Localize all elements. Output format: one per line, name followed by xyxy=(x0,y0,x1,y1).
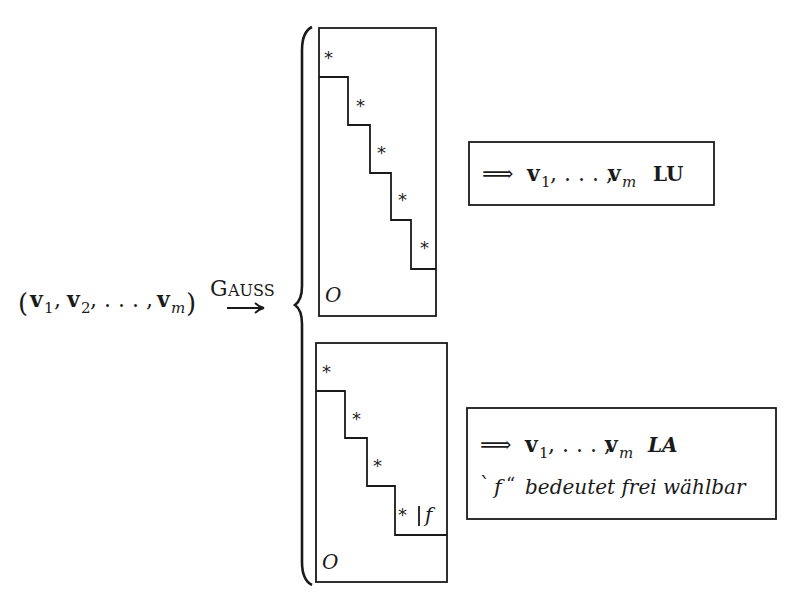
note-close-quote: “ xyxy=(506,473,515,494)
gauss-label-initial: G xyxy=(210,276,228,301)
implies-arrow-icon: ⟹ xyxy=(482,161,514,186)
result-frame xyxy=(467,408,776,519)
note-open-quote: ` xyxy=(480,473,490,497)
pivot-star-2: * xyxy=(352,408,361,429)
vector-vm: v xyxy=(156,286,171,312)
free-variable-label: f xyxy=(423,503,436,527)
conclusion-lu: LU xyxy=(653,162,683,186)
gauss-label-smallcaps: AUSS xyxy=(227,281,275,300)
conclusion-la: LA xyxy=(647,433,678,457)
zero-block-label: O xyxy=(322,550,338,574)
matrix-frame xyxy=(319,28,436,316)
implies-arrow-icon: ⟹ xyxy=(480,432,512,457)
result-box-la: ⟹ v 1 , . . . , v m LA ` f “ bedeutet fr… xyxy=(467,408,776,519)
input-vector-tuple: ( v 1 , v 2 , . . . , v m ) xyxy=(18,286,196,318)
result-box-lu: ⟹ v 1 , . . . , v m LU xyxy=(469,142,714,205)
result-vm-subscript: m xyxy=(622,173,636,191)
comma-1: , xyxy=(54,287,61,312)
close-paren: ) xyxy=(186,288,196,318)
result-vector-vm: v xyxy=(604,431,619,457)
curly-brace-icon xyxy=(295,27,312,585)
vector-vm-subscript: m xyxy=(171,299,185,317)
pivot-star-1: * xyxy=(324,47,333,68)
gauss-elimination-diagram: ( v 1 , v 2 , . . . , v m ) G AUSS * * *… xyxy=(0,0,802,604)
echelon-matrix-rank-deficient: * * * * f O xyxy=(316,343,447,582)
result-vector-v1: v xyxy=(526,160,541,186)
ellipsis: , . . . , xyxy=(90,287,153,312)
gauss-arrow: G AUSS xyxy=(210,276,275,313)
pivot-star-4: * xyxy=(398,504,407,525)
result-vector-v1: v xyxy=(524,431,539,457)
note-free-symbol: f xyxy=(492,475,505,499)
pivot-star-5: * xyxy=(420,237,429,258)
vector-v1: v xyxy=(29,286,44,312)
pivot-star-3: * xyxy=(373,455,382,476)
pivot-star-4: * xyxy=(398,189,407,210)
result-ellipsis: , . . . , xyxy=(550,161,613,186)
staircase-line xyxy=(319,77,436,269)
echelon-matrix-full-rank: * * * * * O xyxy=(319,28,436,316)
vector-v2: v xyxy=(66,286,81,312)
result-vm-subscript: m xyxy=(619,444,633,462)
pivot-star-2: * xyxy=(356,95,365,116)
note-text: bedeutet frei wählbar xyxy=(525,475,747,499)
pivot-star-3: * xyxy=(377,142,386,163)
zero-block-label: O xyxy=(325,283,341,307)
pivot-star-1: * xyxy=(322,361,331,382)
vector-v1-subscript: 1 xyxy=(44,299,54,317)
open-paren: ( xyxy=(18,288,28,318)
result-ellipsis: , . . . , xyxy=(548,432,611,457)
result-vector-vm: v xyxy=(607,160,622,186)
